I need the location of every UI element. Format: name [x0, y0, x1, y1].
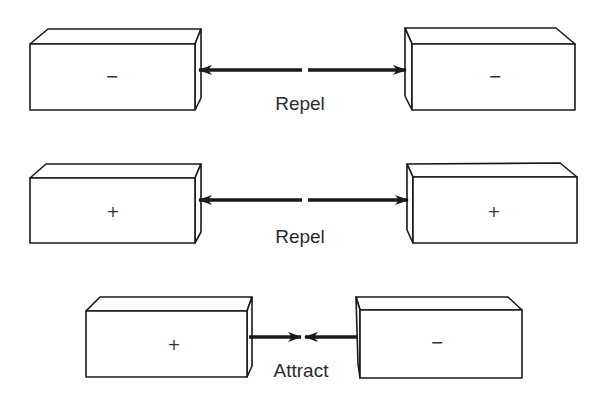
- row-3: + − Attract: [86, 297, 522, 381]
- left-block-sign: +: [106, 202, 119, 221]
- left-block-sign: +: [167, 335, 180, 354]
- row-2: + + Repel: [30, 163, 577, 247]
- right-block-sign: +: [487, 202, 500, 221]
- charge-interaction-diagram: − − Repel + + Repel: [0, 0, 602, 401]
- right-block-sign: −: [488, 67, 501, 86]
- right-block-sign: −: [430, 333, 443, 352]
- interaction-label: Attract: [274, 360, 330, 381]
- row-1: − − Repel: [30, 28, 575, 114]
- interaction-label: Repel: [275, 226, 325, 247]
- left-block-sign: −: [105, 67, 118, 86]
- interaction-label: Repel: [275, 93, 325, 114]
